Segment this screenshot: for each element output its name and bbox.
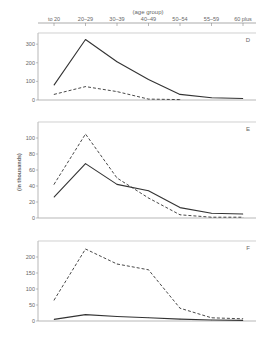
x-tick-label: 60 plus <box>234 16 252 22</box>
data-point <box>85 86 86 87</box>
data-point <box>54 319 55 320</box>
data-point <box>54 197 55 198</box>
data-point <box>117 264 118 265</box>
data-point <box>85 39 86 40</box>
series-line-solid <box>54 164 243 214</box>
y-tick-label: 300 <box>26 41 35 47</box>
data-point <box>180 215 181 216</box>
data-point <box>211 320 212 321</box>
panel-label: F <box>246 245 250 251</box>
y-tick-label: 80 <box>29 151 35 157</box>
x-tick-label: 55–59 <box>204 16 219 22</box>
series-line-solid <box>54 40 243 99</box>
series-line-dashed <box>54 134 243 217</box>
data-point <box>180 99 181 100</box>
y-tick-label: 20 <box>29 199 35 205</box>
y-tick-label: 100 <box>26 135 35 141</box>
y-tick-label: 40 <box>29 183 35 189</box>
y-tick-label: 100 <box>26 286 35 292</box>
data-point <box>211 217 212 218</box>
data-point <box>54 85 55 86</box>
data-point <box>54 184 55 185</box>
x-tick-label: 20–29 <box>78 16 93 22</box>
y-tick-label: 50 <box>29 302 35 308</box>
data-point <box>180 308 181 309</box>
data-point <box>148 198 149 199</box>
data-point <box>117 91 118 92</box>
data-point <box>148 79 149 80</box>
x-tick-label: 40–49 <box>141 16 156 22</box>
data-point <box>180 94 181 95</box>
x-tick-label: 50–54 <box>172 16 187 22</box>
panel-E: E020406080100 <box>26 122 256 221</box>
data-point <box>243 214 244 215</box>
y-tick-label: 0 <box>32 318 35 324</box>
data-point <box>117 316 118 317</box>
chart: (age group) (in thousands) to 2020–2930–… <box>0 0 271 344</box>
data-point <box>148 99 149 100</box>
panel-D: D0100200300 <box>26 33 256 103</box>
data-point <box>117 178 118 179</box>
series-line-dashed <box>54 87 180 100</box>
data-point <box>211 97 212 98</box>
y-tick-label: 0 <box>32 97 35 103</box>
x-tick-label: to 20 <box>48 16 60 22</box>
panel-label: D <box>246 37 251 43</box>
y-tick-label: 200 <box>26 60 35 66</box>
data-point <box>117 62 118 63</box>
y-tick-label: 0 <box>32 215 35 221</box>
series-line-dashed <box>54 249 243 319</box>
panel-label: E <box>246 126 250 132</box>
panel-F: F050100150200 <box>26 241 256 324</box>
data-point <box>148 191 149 192</box>
x-axis-title: (age group) <box>132 9 163 15</box>
y-axis-title: (in thousands) <box>16 153 22 191</box>
data-point <box>117 184 118 185</box>
x-tick-label: 30–39 <box>109 16 124 22</box>
data-point <box>211 213 212 214</box>
data-point <box>211 318 212 319</box>
data-point <box>243 318 244 319</box>
data-point <box>243 98 244 99</box>
data-point <box>54 300 55 301</box>
data-point <box>85 163 86 164</box>
data-point <box>180 319 181 320</box>
data-point <box>54 94 55 95</box>
data-point <box>148 270 149 271</box>
data-point <box>85 249 86 250</box>
y-tick-label: 100 <box>26 78 35 84</box>
y-tick-label: 60 <box>29 167 35 173</box>
y-tick-label: 150 <box>26 270 35 276</box>
data-point <box>85 134 86 135</box>
y-tick-label: 200 <box>26 254 35 260</box>
data-point <box>180 207 181 208</box>
data-point <box>243 320 244 321</box>
data-point <box>85 314 86 315</box>
data-point <box>243 217 244 218</box>
data-point <box>148 318 149 319</box>
